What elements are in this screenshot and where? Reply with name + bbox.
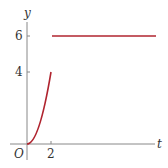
- piecewise-graph: y t O 2 4 6: [0, 0, 168, 168]
- tick-label-y6: 6: [15, 29, 23, 43]
- tick-label-y4: 4: [15, 65, 23, 79]
- t-axis-label: t: [157, 137, 162, 151]
- parabola-segment: [27, 72, 51, 144]
- origin-label: O: [14, 147, 24, 161]
- y-axis-label: y: [23, 6, 31, 20]
- tick-label-t2: 2: [47, 147, 55, 161]
